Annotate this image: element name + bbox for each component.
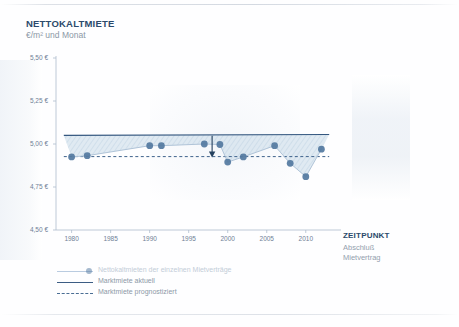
x-axis-tick-label: 1995 [172, 235, 206, 242]
data-point-marker [287, 160, 294, 167]
data-point-marker [240, 154, 247, 161]
data-point-marker [302, 173, 309, 180]
x-axis-tick-label: 1990 [133, 235, 167, 242]
figure-root: NETTOKALTMIETE €/m² und Monat 4,50 €4,75… [0, 0, 459, 327]
data-point-marker [68, 154, 75, 161]
data-point-marker [224, 159, 231, 166]
data-point-marker [217, 141, 224, 148]
x-axis-tick-label: 2005 [250, 235, 284, 242]
legend-label-series: Nettokaltmieten der einzelnen Mietverträ… [98, 266, 231, 273]
x-axis-caption-line2: Mietvertrag [343, 253, 381, 262]
x-axis-tick-label: 1985 [94, 235, 128, 242]
y-axis-tick-label: 4,50 € [14, 226, 48, 233]
legend-label-current-market-rent: Marktmiete aktuell [98, 277, 155, 284]
data-point-marker [271, 142, 278, 149]
y-axis-tick-label: 5,25 € [14, 97, 48, 104]
legend-marker-dot-icon [86, 268, 92, 274]
data-point-marker [146, 142, 153, 149]
data-point-marker [201, 141, 208, 148]
x-axis-tick-label: 2000 [211, 235, 245, 242]
legend-swatch-solid-line [57, 282, 93, 283]
legend-label-forecast-market-rent: Marktmiete prognostiziert [98, 288, 177, 295]
data-point-marker [318, 146, 325, 153]
legend-swatch-dashed-line [57, 293, 93, 294]
x-axis-tick-label: 1980 [55, 235, 89, 242]
chart-plot-area [0, 0, 459, 327]
y-axis-tick-label: 5,50 € [14, 54, 48, 61]
y-axis-tick-label: 4,75 € [14, 183, 48, 190]
x-axis-caption-line1: Abschluß [343, 243, 374, 252]
x-axis-tick-label: 2010 [289, 235, 323, 242]
data-point-marker [84, 152, 91, 159]
market-rent-gap-band [64, 135, 329, 177]
x-axis-caption-title: ZEITPUNKT [343, 231, 390, 240]
y-axis-tick-label: 5,00 € [14, 140, 48, 147]
data-point-marker [158, 142, 165, 149]
